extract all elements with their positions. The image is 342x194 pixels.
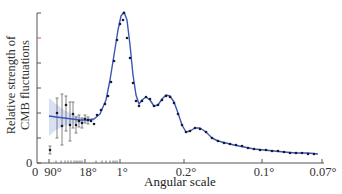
data-point — [169, 96, 172, 99]
data-point — [116, 39, 119, 42]
data-point — [181, 124, 184, 127]
data-point — [100, 109, 103, 112]
data-point — [110, 81, 113, 84]
x-tick-label-90: 90° — [44, 165, 62, 180]
data-point — [81, 122, 84, 125]
y-axis-label-line-1: Relative strength of — [4, 36, 18, 135]
data-point — [72, 113, 75, 116]
x-tick-label-0-07: 0.07° — [310, 165, 337, 180]
data-point — [189, 130, 192, 133]
data-point — [149, 98, 152, 101]
data-point — [141, 100, 144, 103]
x-axis-label: Angular scale — [144, 174, 216, 190]
data-point — [173, 102, 176, 105]
data-point — [259, 149, 262, 152]
data-point — [69, 124, 72, 127]
data-point — [205, 131, 208, 134]
data-point — [56, 112, 59, 115]
data-point — [126, 37, 129, 40]
data-point — [217, 140, 220, 143]
data-point — [90, 120, 93, 123]
data-point — [247, 147, 250, 150]
model-curve — [49, 12, 318, 154]
data-point — [289, 152, 292, 155]
data-point — [65, 104, 68, 107]
data-point — [235, 144, 238, 147]
data-point — [104, 103, 107, 106]
data-point — [253, 148, 256, 151]
data-point — [138, 105, 141, 108]
data-point — [119, 23, 122, 26]
data-point — [123, 12, 126, 15]
data-point — [223, 142, 226, 145]
data-point — [84, 118, 87, 121]
data-point — [153, 105, 156, 108]
data-point — [122, 19, 125, 22]
data-point — [229, 143, 232, 146]
data-point — [161, 99, 164, 102]
y-axis-label: Relative strength of CMB fluctuations — [1, 20, 35, 150]
y-axis-label-line-2: CMB fluctuations — [18, 36, 32, 135]
data-point — [165, 95, 168, 98]
x-tick-label-18: 18° — [79, 165, 97, 180]
data-point — [271, 150, 274, 153]
data-point — [135, 100, 138, 103]
data-point — [211, 137, 214, 140]
data-point — [129, 57, 132, 60]
data-point — [265, 149, 268, 152]
data-point — [295, 152, 298, 155]
data-point — [177, 113, 180, 116]
data-point — [61, 125, 64, 128]
data-point — [157, 104, 160, 107]
data-point — [241, 145, 244, 148]
data-point — [283, 151, 286, 154]
data-point — [194, 127, 197, 130]
data-point — [107, 95, 110, 98]
data-point — [277, 150, 280, 153]
x-axis-origin-label: 0 — [32, 165, 38, 180]
data-point — [87, 119, 90, 122]
data-points — [49, 12, 316, 156]
data-point — [75, 124, 78, 127]
axes — [37, 13, 324, 163]
data-point — [132, 82, 135, 85]
data-point — [185, 131, 188, 134]
data-point — [78, 120, 81, 123]
data-point — [199, 128, 202, 131]
data-point — [307, 153, 310, 156]
data-point — [313, 153, 316, 156]
data-point — [49, 149, 52, 152]
x-tick-label-0-1: 0.1° — [254, 165, 275, 180]
data-point — [145, 96, 148, 99]
x-tick-label-1: 1° — [116, 165, 127, 180]
data-point — [96, 114, 99, 117]
data-point — [113, 60, 116, 63]
data-point — [301, 152, 304, 155]
data-point — [93, 123, 96, 126]
